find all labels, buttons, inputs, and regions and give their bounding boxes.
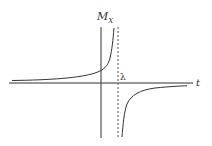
mgf-plot: MX t λ	[0, 0, 212, 146]
left-branch-curve	[12, 28, 114, 81]
asymptote-label: λ	[120, 72, 126, 82]
right-branch-curve	[122, 86, 187, 137]
x-axis-label: t	[196, 77, 201, 88]
y-axis-label: MX	[96, 10, 114, 25]
